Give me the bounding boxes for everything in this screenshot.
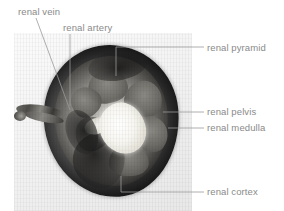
renal-vessel-stalk-tip [14,111,26,121]
label-renal-pyramid: renal pyramid [207,42,266,53]
label-renal-artery: renal artery [63,22,112,33]
label-renal-cortex: renal cortex [207,186,258,197]
kidney-specimen-photo [14,33,192,211]
label-renal-vein: renal vein [18,6,60,17]
anatomy-figure: renal vein renal artery renal pyramid re… [0,0,284,211]
label-renal-pelvis: renal pelvis [207,106,256,117]
label-renal-medulla: renal medulla [207,122,265,133]
